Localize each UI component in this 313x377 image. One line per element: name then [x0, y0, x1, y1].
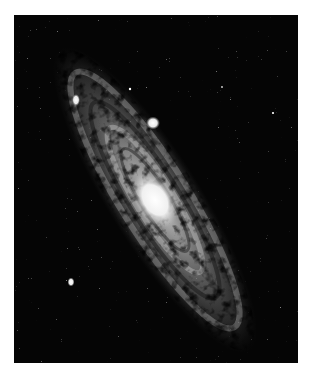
satellite-lower-left [68, 278, 75, 287]
satellite-upper-right [146, 117, 160, 130]
galaxy-illustration [14, 15, 298, 363]
galaxy-photo [14, 15, 298, 363]
satellite-upper-left [72, 94, 80, 106]
star [272, 112, 274, 114]
star [221, 86, 223, 88]
star [129, 88, 131, 90]
